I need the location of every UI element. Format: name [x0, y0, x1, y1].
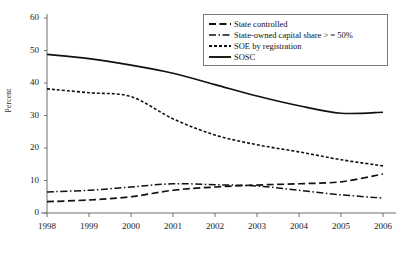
legend-item-label: SOE by registration	[233, 41, 302, 51]
chart-container: Percent 0102030405060 199819992000200120…	[0, 0, 401, 256]
legend-item[interactable]: State-owned capital share > = 50%	[207, 29, 383, 40]
legend-item[interactable]: SOSC	[207, 51, 383, 62]
series-line	[47, 89, 383, 166]
legend-item[interactable]: SOE by registration	[207, 40, 383, 51]
legend-item-label: SOSC	[233, 52, 255, 62]
data-series-group	[47, 54, 383, 201]
legend-line-swatch-icon	[207, 52, 233, 62]
legend-line-swatch-icon	[207, 19, 233, 29]
series-line	[47, 184, 383, 198]
legend-line-swatch-icon	[207, 41, 233, 51]
legend-item[interactable]: State controlled	[207, 18, 383, 29]
legend-line-swatch-icon	[207, 30, 233, 40]
chart-legend: State controlledState-owned capital shar…	[203, 14, 388, 66]
legend-item-label: State-owned capital share > = 50%	[233, 30, 353, 40]
series-line	[47, 174, 383, 202]
legend-item-label: State controlled	[233, 19, 288, 29]
